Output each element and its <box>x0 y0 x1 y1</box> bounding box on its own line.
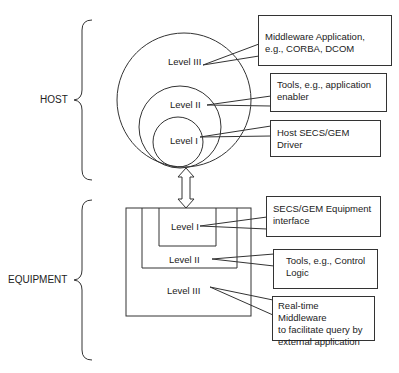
callout-text: Middleware Application, <box>265 31 385 43</box>
callout-text: interface <box>273 215 374 227</box>
double-arrow-icon <box>178 168 194 208</box>
callout-text: Real-time Middleware <box>278 300 368 324</box>
callout-equip-level1: SECS/GEM Equipment interface <box>266 196 381 237</box>
callout-text: Tools, e.g., Control <box>286 255 371 267</box>
callout-pointer-host-level3 <box>203 44 259 65</box>
callout-text: SECS/GEM Equipment <box>273 203 374 215</box>
callout-text: enabler <box>277 91 380 103</box>
callout-text: Logic <box>286 267 371 279</box>
host-brace <box>74 20 92 180</box>
callout-text: Tools, e.g., application <box>277 79 380 91</box>
callout-text: Driver <box>277 139 374 151</box>
callout-text: e.g., CORBA, DCOM <box>265 43 385 55</box>
callout-text: external application <box>278 336 368 348</box>
callout-pointer-equip-level1 <box>200 217 267 229</box>
callout-pointer-equip-level2 <box>212 254 274 266</box>
host-level1-label: Level I <box>170 136 198 146</box>
callout-host-level1: Host SECS/GEM Driver <box>270 120 381 157</box>
host-level2-label: Level II <box>170 100 201 110</box>
callout-pointer-host-level2 <box>207 96 271 106</box>
callout-pointer-equip-level3 <box>210 287 273 315</box>
equip-level2-label: Level II <box>169 255 200 265</box>
callout-equip-level3: Real-time Middleware to facilitate query… <box>272 296 375 341</box>
callout-text: to facilitate query by <box>278 324 368 336</box>
host-level3-label: Level III <box>168 57 201 67</box>
host-label: HOST <box>40 95 68 105</box>
equipment-label: EQUIPMENT <box>8 275 67 285</box>
callout-text: Host SECS/GEM <box>277 127 374 139</box>
callout-equip-level2: Tools, e.g., Control Logic <box>273 249 378 289</box>
equipment-brace <box>74 200 92 360</box>
equip-level3-label: Level III <box>167 286 200 296</box>
equip-level1-label: Level I <box>171 222 199 232</box>
callout-pointer-host-level1 <box>200 126 271 137</box>
callout-host-level2: Tools, e.g., application enabler <box>270 73 387 112</box>
callout-host-level3: Middleware Application, e.g., CORBA, DCO… <box>258 15 392 66</box>
